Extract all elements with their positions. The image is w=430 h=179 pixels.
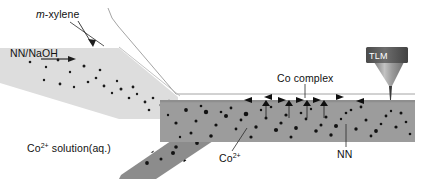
label-m-italic: m <box>36 8 45 20</box>
label-co-solution-suffix: solution(aq.) <box>49 142 111 154</box>
probe-cone <box>374 62 404 86</box>
label-xylene-text: -xylene <box>45 8 80 20</box>
main-channel <box>160 100 415 142</box>
label-co-complex: Co complex <box>277 72 333 84</box>
label-co-ion: Co2+ <box>219 152 241 164</box>
label-nn: NN <box>337 148 352 160</box>
probe-tip <box>389 86 392 100</box>
microfluidic-diagram: m-xylene NN/NaOH Co2+ solution(aq.) Co c… <box>0 0 430 179</box>
label-nn-naoh: NN/NaOH <box>10 47 58 59</box>
label-tlm: TLM <box>369 51 388 61</box>
interface-marker-left <box>264 94 272 100</box>
leader-mxylene-a <box>70 22 104 46</box>
label-co-ion-prefix: Co <box>219 152 233 164</box>
interface-marker-right <box>336 94 344 100</box>
label-co-solution-prefix: Co <box>27 142 41 154</box>
label-co-ion-charge: 2+ <box>233 152 241 159</box>
label-co-solution: Co2+ solution(aq.) <box>27 142 111 154</box>
label-co-solution-charge: 2+ <box>41 142 49 149</box>
label-m-xylene: m-xylene <box>36 8 79 20</box>
